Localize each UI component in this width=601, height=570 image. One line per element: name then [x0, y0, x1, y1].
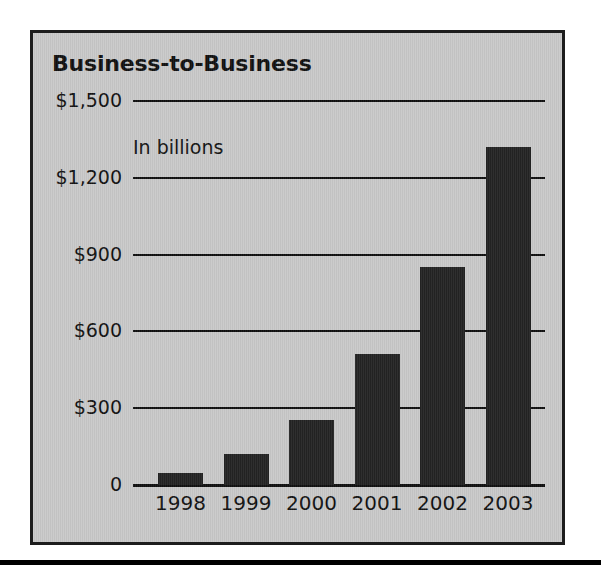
bar [289, 420, 334, 485]
bar [486, 147, 531, 485]
y-tick-label: $1,200 [56, 166, 122, 188]
page-rule-divider [0, 560, 601, 565]
y-tick-label: $300 [74, 396, 122, 418]
bar [420, 267, 465, 485]
y-tick-label: $1,500 [56, 89, 122, 111]
y-tick-label: $600 [74, 319, 122, 341]
gridline: $900 [133, 254, 545, 256]
x-tick-label: 2003 [477, 491, 539, 515]
plot-area: 0$300$600$900$1,200$1,500 19981999200020… [133, 101, 545, 485]
bar [158, 473, 203, 485]
x-tick-label: 2000 [281, 491, 343, 515]
x-tick-label: 2002 [412, 491, 474, 515]
bar [224, 454, 269, 485]
gridline: $1,500 [133, 100, 545, 102]
figure-panel: Business-to-Business In billions 0$300$6… [30, 30, 565, 545]
bar [355, 354, 400, 485]
gridline: $1,200 [133, 177, 545, 179]
y-tick-label: $900 [74, 243, 122, 265]
gridline: $300 [133, 407, 545, 409]
y-tick-label: 0 [110, 473, 122, 495]
x-tick-label: 1998 [150, 491, 212, 515]
gridline: $600 [133, 330, 545, 332]
x-tick-label: 1999 [215, 491, 277, 515]
x-tick-label: 2001 [346, 491, 408, 515]
chart-title: Business-to-Business [52, 51, 312, 76]
